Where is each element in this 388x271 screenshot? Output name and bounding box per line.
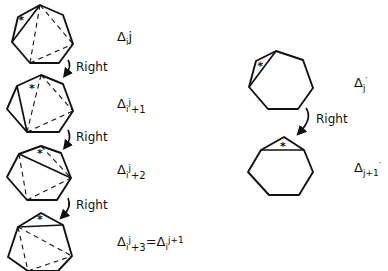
step-label-right-1: Δj+1′: [354, 161, 381, 176]
right-arrow-2: [66, 130, 70, 146]
step-label-2: Δij+2: [117, 163, 146, 178]
step-label-right-0: Δj′: [354, 76, 367, 91]
step-label-3: Δij+3=Δij+1: [117, 235, 184, 250]
star-marker: *: [37, 148, 43, 159]
star-marker: *: [280, 141, 286, 152]
star-marker: *: [37, 214, 43, 225]
arrow-label: Right: [316, 113, 348, 125]
step-label-0: Δij: [117, 30, 132, 45]
arrow-label: Right: [76, 199, 108, 211]
arrow-label: Right: [76, 131, 108, 143]
right-arrow-1: [66, 60, 70, 74]
right-arrow-3: [63, 198, 69, 216]
step-label-1: Δij+1: [117, 97, 146, 112]
star-marker: *: [29, 83, 35, 94]
heptagon-step-1: [7, 75, 73, 132]
right-arrow-4: [300, 108, 308, 132]
arrow-label: Right: [76, 61, 108, 73]
triangulation-figure: [0, 0, 388, 271]
